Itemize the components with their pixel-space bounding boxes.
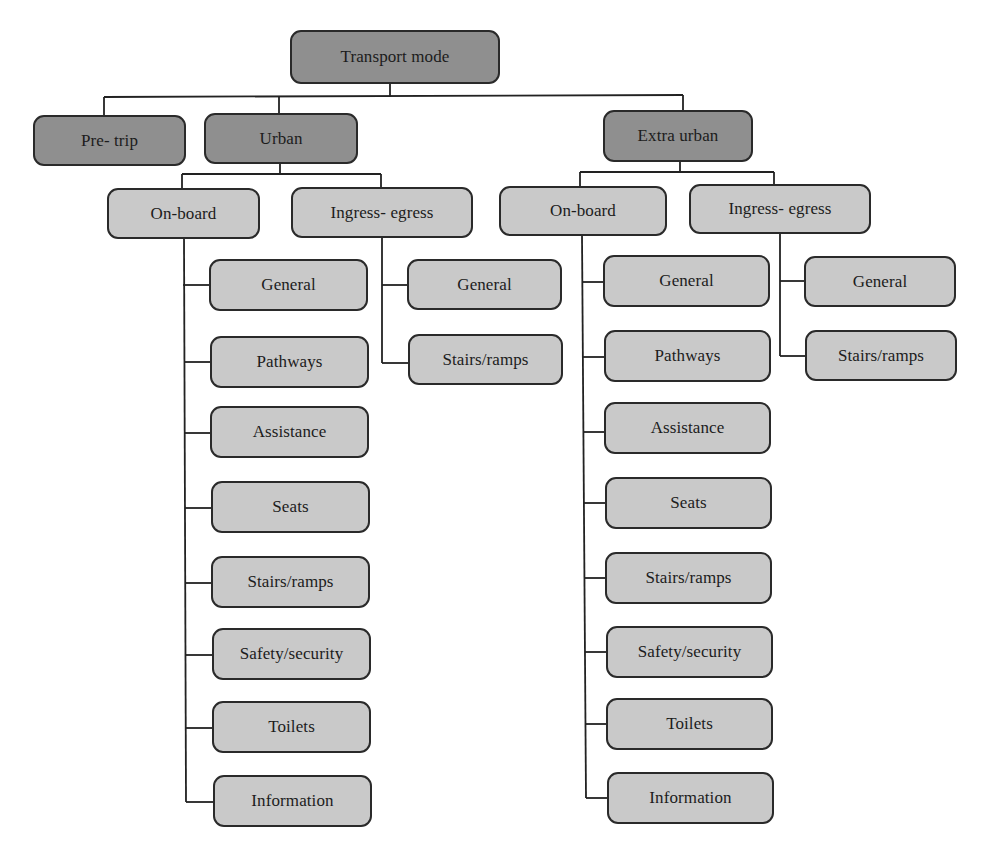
node-urban-on-board: On-board <box>107 188 260 239</box>
node-extra-onboard-toilets: Toilets <box>606 698 773 750</box>
node-urban-onboard-seats: Seats <box>211 481 370 533</box>
node-label: Safety/security <box>638 642 741 662</box>
node-label: Seats <box>272 497 308 517</box>
node-extra-urban: Extra urban <box>603 110 753 162</box>
node-urban-onboard-toilets: Toilets <box>212 701 371 753</box>
node-label: General <box>853 272 908 292</box>
node-extra-onboard-pathways: Pathways <box>604 330 771 382</box>
node-label: Toilets <box>666 714 713 734</box>
node-label: Extra urban <box>638 126 719 146</box>
node-label: Assistance <box>253 422 327 442</box>
transport-mode-tree-diagram: Transport mode Pre- trip Urban Extra urb… <box>0 0 982 854</box>
node-label: Stairs/ramps <box>247 572 333 592</box>
node-urban-onboard-information: Information <box>213 775 372 827</box>
node-label: Pathways <box>257 352 323 372</box>
node-label: General <box>659 271 714 291</box>
node-label: Pathways <box>655 346 721 366</box>
node-label: Information <box>251 791 333 811</box>
node-label: Safety/security <box>240 644 343 664</box>
node-label: On-board <box>550 201 616 221</box>
node-urban-ingress-egress: Ingress- egress <box>291 187 473 238</box>
node-extra-onboard-assistance: Assistance <box>604 402 771 454</box>
node-label: Information <box>649 788 731 808</box>
node-label: Pre- trip <box>81 131 138 151</box>
node-label: Seats <box>670 493 706 513</box>
node-urban-onboard-general: General <box>209 259 368 311</box>
node-extra-onboard-stairs-ramps: Stairs/ramps <box>605 552 772 604</box>
node-extra-ingress-general: General <box>804 256 956 307</box>
node-extra-onboard-safety-security: Safety/security <box>606 626 773 678</box>
node-label: On-board <box>151 204 217 224</box>
node-urban-ingress-stairs-ramps: Stairs/ramps <box>408 334 563 385</box>
node-urban: Urban <box>204 113 358 164</box>
node-extra-onboard-general: General <box>603 255 770 307</box>
node-urban-onboard-assistance: Assistance <box>210 406 369 458</box>
node-label: Assistance <box>651 418 725 438</box>
node-extra-onboard-information: Information <box>607 772 774 824</box>
node-label: Stairs/ramps <box>645 568 731 588</box>
node-transport-mode: Transport mode <box>290 30 500 84</box>
node-label: Urban <box>260 129 303 149</box>
node-urban-onboard-safety-security: Safety/security <box>212 628 371 680</box>
node-label: General <box>457 275 512 295</box>
node-urban-ingress-general: General <box>407 259 562 310</box>
node-pre-trip: Pre- trip <box>33 115 186 166</box>
node-extra-ingress-stairs-ramps: Stairs/ramps <box>805 330 957 381</box>
node-label: Toilets <box>268 717 315 737</box>
node-label: Ingress- egress <box>729 199 832 219</box>
node-label: General <box>261 275 316 295</box>
node-urban-onboard-stairs-ramps: Stairs/ramps <box>211 556 370 608</box>
node-label: Stairs/ramps <box>442 350 528 370</box>
node-label: Stairs/ramps <box>838 346 924 366</box>
node-extra-urban-ingress-egress: Ingress- egress <box>689 184 871 234</box>
node-label: Ingress- egress <box>331 203 434 223</box>
node-urban-onboard-pathways: Pathways <box>210 336 369 388</box>
node-extra-onboard-seats: Seats <box>605 477 772 529</box>
node-label: Transport mode <box>341 47 450 67</box>
node-extra-urban-on-board: On-board <box>499 186 667 236</box>
